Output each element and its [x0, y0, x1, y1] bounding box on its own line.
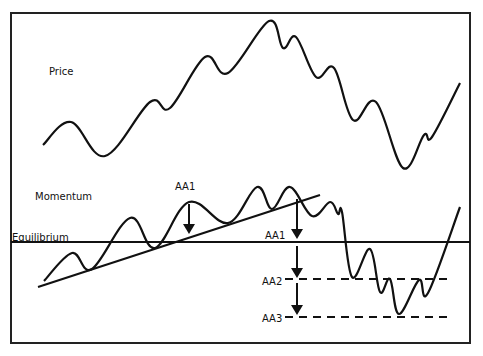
aa2-label: AA2: [262, 276, 282, 287]
diagram-frame: [11, 13, 470, 343]
price-curve: [43, 21, 460, 169]
down-arrow-icon: [183, 204, 195, 234]
momentum-curve: [44, 187, 460, 314]
support-levels: [285, 279, 452, 317]
equilibrium-label: Equilibrium: [12, 232, 69, 243]
aa1-top-label: AA1: [175, 181, 195, 192]
momentum-diagram: Price Momentum Equilibrium AA1 AA1 AA2 A…: [0, 0, 483, 356]
momentum-label: Momentum: [35, 191, 92, 202]
aa1-label: AA1: [265, 230, 285, 241]
aa3-label: AA3: [262, 313, 282, 324]
diagram-canvas: Price Momentum Equilibrium AA1 AA1 AA2 A…: [0, 0, 483, 356]
down-arrow-icon: [291, 283, 303, 315]
measurement-arrows: [183, 199, 303, 315]
price-label: Price: [49, 66, 73, 77]
down-arrow-icon: [291, 246, 303, 278]
